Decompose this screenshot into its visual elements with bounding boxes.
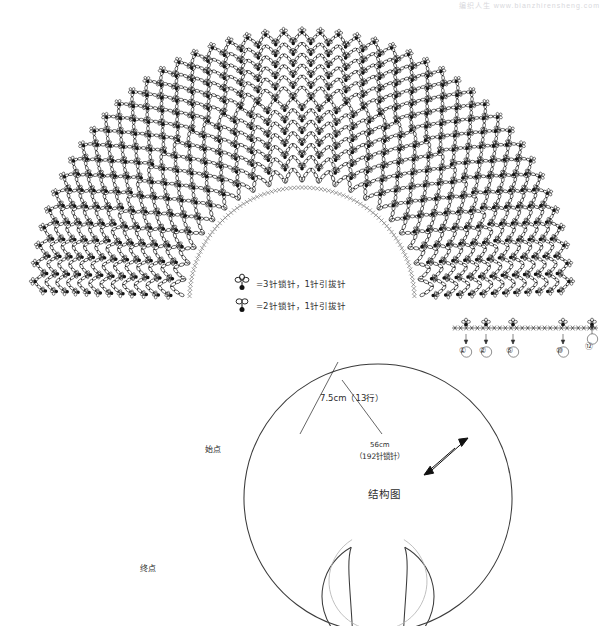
structure-rows-label: 7.5cm（13行）	[320, 391, 384, 403]
structure-neck-label: 56cm	[370, 441, 390, 449]
structure-diagram-title: 结构图	[368, 486, 401, 501]
legend-item: =2针锁针，1针引拔针	[232, 294, 382, 316]
structure-neck-stitches-label: （192针锁针）	[355, 450, 404, 461]
stitch-chart-svg	[0, 0, 604, 380]
legend-item: =3针锁针，1针引拔针	[232, 272, 382, 294]
picot-2-icon	[232, 295, 252, 315]
legend-item-label: =2针锁针，1针引拔针	[256, 299, 346, 311]
legend-item-label: =3针锁针，1针引拔针	[256, 277, 346, 289]
pattern-chart-page: 编织人生 www.bianzhirensheng.com =3针锁针，1针引拔针…	[0, 0, 604, 626]
picot-3-icon	[232, 273, 252, 293]
legend: =3针锁针，1针引拔针 =2针锁针，1针引拔针	[232, 272, 382, 316]
structure-diagram-svg	[0, 352, 604, 626]
row-marker-12: ⑫	[585, 340, 593, 351]
